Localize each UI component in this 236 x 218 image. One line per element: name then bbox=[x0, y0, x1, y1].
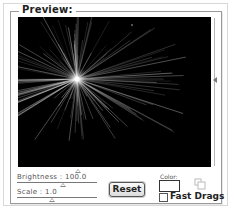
flare-center bbox=[75, 77, 80, 82]
preview-canvas[interactable] bbox=[18, 17, 211, 167]
scale-slider-thumb[interactable] bbox=[49, 198, 55, 202]
reset-button[interactable]: Reset bbox=[109, 182, 145, 197]
color-label: Color: bbox=[160, 173, 178, 180]
scale-slider-track[interactable] bbox=[17, 197, 97, 198]
vertical-slider-thumb[interactable] bbox=[213, 77, 217, 83]
fast-drags-label[interactable]: Fast Drags bbox=[170, 191, 224, 201]
preview-group-title: Preview: bbox=[19, 4, 76, 15]
vertical-position-slider[interactable] bbox=[214, 18, 215, 166]
flare-graphic bbox=[18, 17, 211, 167]
brightness-label: Brightness : 100.0 bbox=[17, 173, 87, 181]
flare-rays bbox=[18, 17, 186, 141]
brightness-slider-thumb[interactable] bbox=[60, 183, 66, 187]
scale-label: Scale : 1.0 bbox=[17, 188, 57, 196]
color-picker-icon[interactable] bbox=[194, 178, 206, 190]
brightness-slider-track[interactable] bbox=[17, 182, 97, 183]
flare-speck bbox=[131, 24, 133, 26]
fast-drags-checkbox[interactable] bbox=[159, 193, 168, 202]
